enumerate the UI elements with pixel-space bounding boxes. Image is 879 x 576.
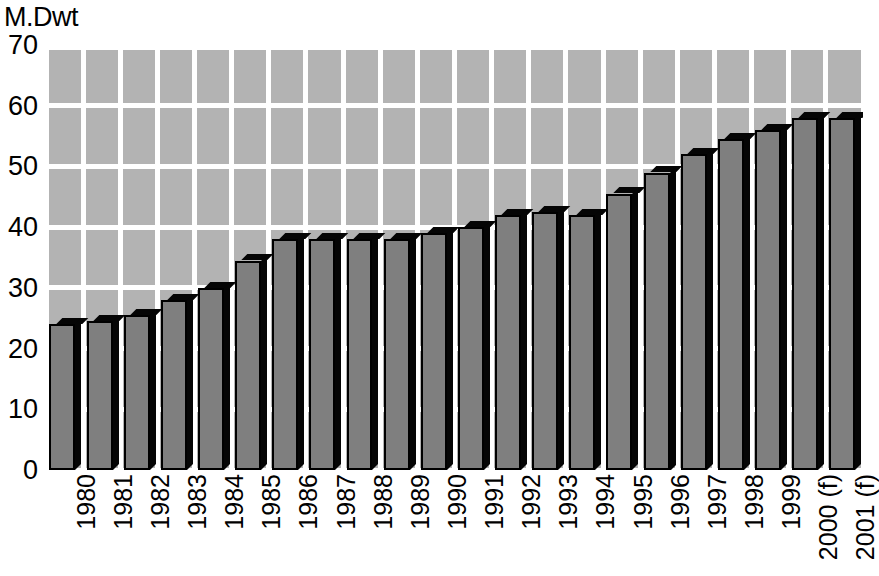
bar-side-face: [224, 282, 230, 470]
x-axis-tick-labels: 1980198119821983198419851986198719881989…: [46, 470, 863, 576]
bar-front-face: [309, 239, 335, 470]
bar-side-face: [670, 166, 676, 470]
bar-front-face: [347, 239, 373, 470]
bar: [495, 209, 527, 470]
bar-front-face: [532, 212, 558, 470]
bar-front-face: [235, 261, 261, 470]
y-axis-tick-label: 30: [8, 274, 38, 301]
x-axis-tick-label: 1983: [185, 474, 210, 530]
bar: [569, 209, 601, 470]
bar-front-face: [272, 239, 298, 470]
bar-front-face: [87, 321, 113, 470]
bar: [458, 221, 490, 470]
x-axis-tick-label: 1984: [222, 474, 247, 530]
bar-side-face: [781, 124, 787, 470]
y-axis-tick-labels: 010203040506070: [0, 0, 44, 576]
bar-front-face: [718, 139, 744, 470]
plot-area: [46, 45, 863, 470]
x-axis-tick-label: 1993: [556, 474, 581, 530]
bar: [829, 112, 861, 470]
bar-front-face: [198, 288, 224, 470]
bar-side-face: [335, 233, 341, 470]
bar: [384, 233, 416, 470]
bar-front-face: [644, 173, 670, 471]
bar-side-face: [150, 309, 156, 470]
bar-front-face: [458, 227, 484, 470]
bar-front-face: [161, 300, 187, 470]
bar-front-face: [49, 324, 75, 470]
x-axis-tick-label: 1982: [148, 474, 173, 530]
bar-front-face: [829, 118, 855, 470]
bar-side-face: [521, 209, 527, 470]
bar-side-face: [75, 318, 81, 470]
x-axis-tick-label: 1994: [593, 474, 618, 530]
bar: [309, 233, 341, 470]
bar-front-face: [755, 130, 781, 470]
bar: [161, 294, 193, 470]
x-axis-tick-label: 1980: [74, 474, 99, 530]
bar-side-face: [855, 112, 861, 470]
bar-side-face: [447, 227, 453, 470]
bar-side-face: [484, 221, 490, 470]
x-axis-tick-label: 1990: [445, 474, 470, 530]
bar-side-face: [113, 315, 119, 470]
y-axis-tick-label: 0: [23, 457, 38, 484]
bar: [755, 124, 787, 470]
bar-side-face: [372, 233, 378, 470]
y-axis-tick-label: 20: [8, 335, 38, 362]
bar-side-face: [261, 254, 267, 470]
bar: [124, 309, 156, 470]
x-axis-tick-label: 1987: [334, 474, 359, 530]
x-axis-tick-label: 1981: [111, 474, 136, 530]
bar-front-face: [421, 233, 447, 470]
y-axis-tick-label: 70: [8, 32, 38, 59]
y-axis-tick-label: 60: [8, 92, 38, 119]
bar: [235, 254, 267, 470]
bar-front-face: [681, 154, 707, 470]
bar-side-face: [818, 112, 824, 470]
bar-front-face: [792, 118, 818, 470]
bar-side-face: [187, 294, 193, 470]
bar-side-face: [595, 209, 601, 470]
y-axis-tick-label: 40: [8, 214, 38, 241]
x-axis-tick-label: 1995: [631, 474, 656, 530]
bar-front-face: [384, 239, 410, 470]
x-axis-tick-label: 1991: [482, 474, 507, 530]
x-axis-tick-label: 2000 (f): [816, 474, 841, 560]
bar-side-face: [744, 133, 750, 470]
bar: [421, 227, 453, 470]
bar-side-face: [298, 233, 304, 470]
bar-side-face: [558, 206, 564, 470]
x-axis-tick-label: 1992: [519, 474, 544, 530]
x-axis-tick-label: 1999: [779, 474, 804, 530]
bar: [198, 282, 230, 470]
x-axis-tick-label: 2001 (f): [853, 474, 878, 560]
x-axis-tick-label: 1986: [296, 474, 321, 530]
bar: [272, 233, 304, 470]
bar: [606, 187, 638, 470]
bar-side-face: [410, 233, 416, 470]
bar-front-face: [124, 315, 150, 470]
bar: [49, 318, 81, 470]
bar-side-face: [632, 187, 638, 470]
bar-side-face: [707, 148, 713, 470]
bar: [87, 315, 119, 470]
bar: [718, 133, 750, 470]
bar: [532, 206, 564, 470]
x-axis-tick-label: 1998: [742, 474, 767, 530]
bar: [644, 166, 676, 470]
bar-front-face: [569, 215, 595, 470]
x-axis-tick-label: 1985: [259, 474, 284, 530]
bar-front-face: [606, 194, 632, 470]
y-axis-tick-label: 50: [8, 153, 38, 180]
bar-front-face: [495, 215, 521, 470]
bar: [347, 233, 379, 470]
x-axis-tick-label: 1989: [408, 474, 433, 530]
x-axis-tick-label: 1988: [371, 474, 396, 530]
bar: [681, 148, 713, 470]
bar: [792, 112, 824, 470]
x-axis-tick-label: 1997: [705, 474, 730, 530]
y-axis-tick-label: 10: [8, 396, 38, 423]
bars-series: [46, 45, 863, 470]
